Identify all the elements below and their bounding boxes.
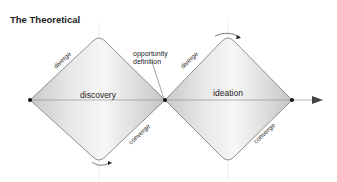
opportunity-label-1: opportunity: [133, 50, 168, 58]
double-diamond-diagram: opportunity definition discovery ideatio…: [0, 0, 337, 182]
rotation-arrow-icon: [215, 33, 240, 37]
arrow-tip-icon: [108, 161, 112, 165]
rotation-arrow-icon: [92, 162, 110, 165]
end-node: [290, 98, 294, 102]
arrow-head-icon: [312, 96, 323, 104]
start-node: [28, 98, 32, 102]
discovery-label: discovery: [80, 90, 117, 100]
ideation-diamond: [165, 38, 292, 160]
opportunity-label-2: definition: [133, 58, 161, 65]
ideation-label: ideation: [213, 88, 243, 98]
